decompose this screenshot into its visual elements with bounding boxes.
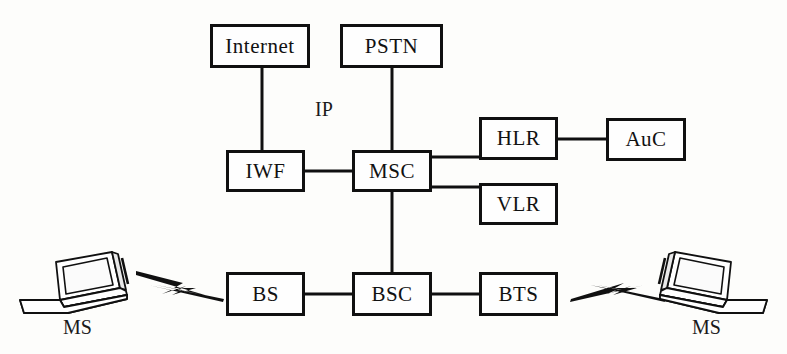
node-bts-label: BTS: [498, 284, 538, 305]
node-bs-label: BS: [252, 284, 279, 305]
ms-right-label: MS: [692, 317, 721, 337]
node-internet[interactable]: Internet: [210, 24, 310, 68]
node-auc-label: AuC: [625, 129, 666, 150]
node-bsc-label: BSC: [371, 284, 412, 305]
network-diagram: Internet PSTN IWF MSC HLR AuC VLR BS BSC…: [0, 0, 787, 354]
node-auc[interactable]: AuC: [606, 118, 686, 161]
ip-link-label: IP: [315, 99, 333, 119]
node-bs[interactable]: BS: [226, 272, 305, 316]
node-internet-label: Internet: [225, 36, 294, 57]
node-hlr[interactable]: HLR: [479, 117, 558, 160]
node-vlr[interactable]: VLR: [479, 183, 558, 225]
node-vlr-label: VLR: [497, 194, 541, 215]
node-msc-label: MSC: [369, 161, 415, 182]
link-ms-left-bs-lightning: [136, 271, 224, 302]
node-iwf[interactable]: IWF: [226, 150, 305, 192]
node-pstn[interactable]: PSTN: [340, 24, 443, 68]
ms-left-laptop-icon: [20, 252, 128, 313]
node-bsc[interactable]: BSC: [352, 272, 432, 316]
node-hlr-label: HLR: [497, 128, 541, 149]
node-bts[interactable]: BTS: [479, 272, 558, 316]
node-msc[interactable]: MSC: [352, 150, 432, 192]
node-pstn-label: PSTN: [365, 36, 418, 57]
ms-left-label: MS: [63, 317, 92, 337]
node-iwf-label: IWF: [246, 161, 286, 182]
link-bts-ms-right-lightning: [570, 283, 665, 302]
ms-right-laptop-icon: [659, 252, 767, 313]
